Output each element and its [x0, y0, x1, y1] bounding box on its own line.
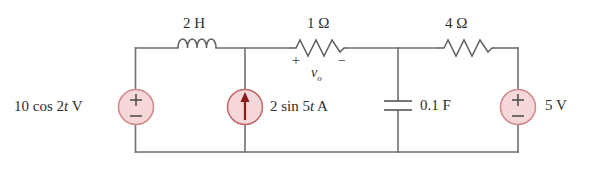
inductor-symbol — [178, 39, 216, 48]
inductor-label: 2 H — [183, 16, 205, 31]
current-source-symbol — [228, 90, 263, 125]
voltage-source-left-symbol — [119, 90, 154, 125]
current-source-label: 2 sin 5t A — [270, 99, 328, 114]
resistor-4ohm-label: 4 Ω — [445, 16, 467, 31]
vo-subscript: o — [317, 73, 322, 83]
resistor-4ohm-symbol — [438, 40, 494, 56]
voltage-source-left-label: 10 cos 2t V — [14, 99, 82, 114]
capacitor-symbol — [384, 101, 412, 110]
resistor-1ohm-label: 1 Ω — [307, 16, 329, 31]
voltage-source-left-value: 10 cos 2t V — [14, 98, 82, 114]
circuit-schematic-canvas — [0, 0, 596, 177]
capacitor-label: 0.1 F — [420, 98, 451, 113]
current-source-value: 2 sin 5t A — [270, 98, 328, 114]
circuit-diagram: 2 H 1 Ω 4 Ω + − vo 10 cos 2t V 2 sin 5t … — [0, 0, 596, 177]
vo-voltage-label: vo — [311, 66, 322, 83]
voltage-source-right-label: 5 V — [545, 98, 567, 113]
vo-minus-label: − — [338, 54, 346, 68]
voltage-source-right-symbol — [501, 90, 536, 125]
vo-plus-label: + — [292, 54, 300, 68]
